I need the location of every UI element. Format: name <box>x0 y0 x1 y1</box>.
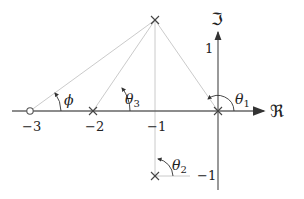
pole-zero-diagram: ℜ ℑ −3 −2 −1 1 −1 ϕ θ3 θ1 θ2 <box>0 0 304 199</box>
line-origin-to-pole <box>155 20 218 111</box>
tick-real-minus3: −3 <box>22 119 41 134</box>
imag-axis-label: ℑ <box>211 9 223 29</box>
line-pole-minus2-to-pole <box>93 20 155 111</box>
phi-arc-icon <box>55 93 61 111</box>
tick-real-minus2: −2 <box>85 119 104 134</box>
phi-label: ϕ <box>64 92 74 108</box>
zero-marker-icon <box>27 108 33 114</box>
real-axis-label: ℜ <box>270 101 284 121</box>
theta2-label: θ2 <box>172 157 187 175</box>
theta1-label: θ1 <box>235 91 250 109</box>
theta2-arc-icon <box>158 159 173 176</box>
angle-arcs <box>55 88 234 176</box>
theta3-label: θ3 <box>125 91 140 109</box>
tick-imag-minus1: −1 <box>197 168 216 183</box>
tick-real-minus1: −1 <box>147 119 166 134</box>
tick-imag-1: 1 <box>205 41 213 56</box>
pole-markers <box>89 16 222 180</box>
